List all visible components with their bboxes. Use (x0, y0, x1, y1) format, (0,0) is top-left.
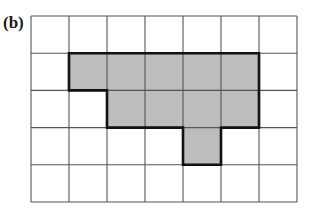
shaded-cell (145, 53, 183, 90)
shaded-cell (221, 53, 259, 90)
shaded-cell (69, 53, 107, 90)
shaded-cell (183, 53, 221, 90)
grid-diagram (0, 0, 310, 213)
shaded-shape (69, 53, 259, 165)
shaded-cell (107, 90, 145, 127)
shaded-cell (107, 53, 145, 90)
shaded-cell (145, 90, 183, 127)
shaded-cell (183, 128, 221, 165)
shaded-cell (183, 90, 221, 127)
shaded-cell (221, 90, 259, 127)
